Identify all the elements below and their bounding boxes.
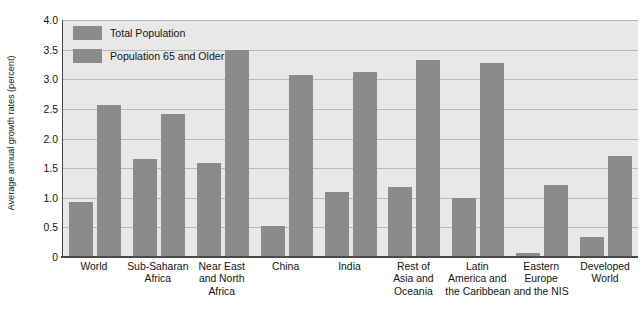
x-axis-tick-label-line: Europe bbox=[509, 273, 573, 285]
bar-chart-figure: Average annual growth rates (percent) 00… bbox=[0, 0, 643, 310]
x-axis-tick-label-line: World bbox=[573, 273, 637, 285]
bar bbox=[544, 185, 568, 257]
x-axis-tick-label: Rest ofAsia andOceania bbox=[381, 261, 445, 298]
chart-legend: Total PopulationPopulation 65 and Older bbox=[73, 26, 224, 63]
x-axis-tick-label-line: China bbox=[254, 261, 318, 273]
x-axis-tick-label: Sub-SaharanAfrica bbox=[126, 261, 190, 286]
y-axis-tick-labels: 00.51.01.52.02.53.03.54.0 bbox=[20, 0, 58, 310]
x-axis-tick-label-line: Latin bbox=[445, 261, 509, 273]
x-axis-tick-label: India bbox=[318, 261, 382, 273]
bar bbox=[580, 237, 604, 257]
bar-group bbox=[261, 20, 313, 257]
legend-swatch bbox=[73, 26, 102, 40]
x-axis-tick-label-line: and North bbox=[190, 273, 254, 285]
bar-group bbox=[580, 20, 632, 257]
bar-group bbox=[452, 20, 504, 257]
legend-label: Population 65 and Older bbox=[110, 50, 224, 62]
x-axis-tick-label-line: Eastern bbox=[509, 261, 573, 273]
bar bbox=[133, 159, 157, 257]
x-axis-tick-label-line: Developed bbox=[573, 261, 637, 273]
x-axis-tick-label-line: Oceania bbox=[381, 286, 445, 298]
bar bbox=[452, 198, 476, 257]
bar bbox=[97, 105, 121, 257]
bar bbox=[480, 63, 504, 257]
y-axis-tick-label: 2.0 bbox=[20, 133, 58, 144]
legend-item: Population 65 and Older bbox=[73, 49, 224, 63]
bar bbox=[225, 50, 249, 257]
x-axis-tick-label-line: India bbox=[318, 261, 382, 273]
legend-swatch bbox=[73, 49, 102, 63]
x-axis-tick-label-line: Sub-Saharan bbox=[126, 261, 190, 273]
legend-item: Total Population bbox=[73, 26, 224, 40]
bar bbox=[69, 202, 93, 257]
x-axis-tick-label-line: World bbox=[62, 261, 126, 273]
x-axis-tick-label-line: America and bbox=[445, 273, 509, 285]
x-axis-tick-label: Near Eastand NorthAfrica bbox=[190, 261, 254, 298]
x-axis-tick-label: LatinAmerica andthe Caribbean bbox=[445, 261, 509, 298]
bar-group bbox=[388, 20, 440, 257]
x-axis-tick-labels: WorldSub-SaharanAfricaNear Eastand North… bbox=[62, 261, 637, 309]
x-axis-tick-label-line: Rest of bbox=[381, 261, 445, 273]
x-axis-tick-label: DevelopedWorld bbox=[573, 261, 637, 286]
x-axis-tick-label-line: and the NIS bbox=[509, 286, 573, 298]
x-axis-tick-label-line: Asia and bbox=[381, 273, 445, 285]
legend-label: Total Population bbox=[110, 27, 185, 39]
bar bbox=[416, 60, 440, 257]
y-axis-tick-label: 2.5 bbox=[20, 103, 58, 114]
x-axis-tick-label-line: Africa bbox=[190, 286, 254, 298]
x-axis-tick-label: World bbox=[62, 261, 126, 273]
bar bbox=[388, 187, 412, 258]
y-axis-tick-label: 3.5 bbox=[20, 44, 58, 55]
x-axis-tick-label-line: Near East bbox=[190, 261, 254, 273]
bar bbox=[289, 75, 313, 257]
bar-group bbox=[516, 20, 568, 257]
bar bbox=[353, 72, 377, 257]
y-axis-tick-label: 3.0 bbox=[20, 74, 58, 85]
x-axis-tick-label-line: the Caribbean bbox=[445, 286, 509, 298]
y-axis-tick-label: 1.0 bbox=[20, 192, 58, 203]
bar bbox=[325, 192, 349, 257]
bar-group bbox=[325, 20, 377, 257]
x-axis-baseline bbox=[61, 256, 638, 258]
y-axis-tick-label: 0 bbox=[20, 252, 58, 263]
bar bbox=[197, 163, 221, 257]
y-axis-title: Average annual growth rates (percent) bbox=[3, 4, 19, 262]
y-axis-tick-label: 1.5 bbox=[20, 163, 58, 174]
x-axis-tick-label: EasternEuropeand the NIS bbox=[509, 261, 573, 298]
y-axis-tick-label: 0.5 bbox=[20, 222, 58, 233]
x-axis-tick-label: China bbox=[254, 261, 318, 273]
bar bbox=[161, 114, 185, 257]
bar bbox=[608, 156, 632, 257]
bar bbox=[261, 226, 285, 257]
x-axis-tick-label-line: Africa bbox=[126, 273, 190, 285]
y-axis-tick-label: 4.0 bbox=[20, 15, 58, 26]
